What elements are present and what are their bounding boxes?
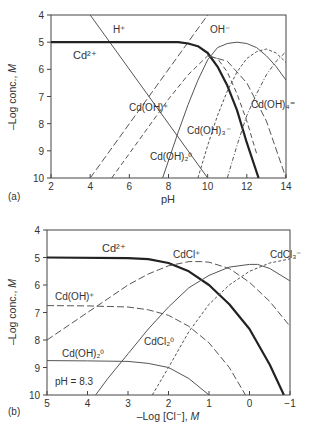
panel-b-ylabel: –Log conc., M xyxy=(6,279,18,345)
y-tick-label: 4 xyxy=(34,225,40,236)
panel-a-xlabel: pH xyxy=(161,193,175,205)
x-tick-label: 0 xyxy=(247,398,253,409)
x-tick-label: 8 xyxy=(166,181,172,192)
label-cdoh2-neutral: Cd(OH)₂⁰ xyxy=(150,151,192,162)
y-tick-label: 9 xyxy=(38,146,44,157)
y-tick-label: 10 xyxy=(33,173,45,184)
series-line xyxy=(47,258,284,396)
panel-a-chart: 246810121445678910 H⁺ OH⁻ Cd²⁺ Cd(OH)⁺ C… xyxy=(6,0,295,205)
y-tick-label: 6 xyxy=(34,280,40,291)
ylabel-text: –Log conc., xyxy=(6,73,18,130)
x-tick-label: −1 xyxy=(284,398,296,409)
label-cdcl-plus: CdCl⁺ xyxy=(173,249,200,260)
x-tick-label: 4 xyxy=(87,181,93,192)
ylabel-text-b: –Log conc., xyxy=(6,288,18,345)
label-cdcl2-neutral: CdCl₂⁰ xyxy=(144,336,174,347)
xlabel-unit: M xyxy=(191,410,200,422)
label-cdoh-plus: Cd(OH)⁺ xyxy=(129,102,168,113)
y-tick-label: 10 xyxy=(29,390,41,401)
label-cdcl3-minus: CdCl₃⁻ xyxy=(270,249,301,260)
y-tick-label: 8 xyxy=(38,119,44,130)
x-tick-label: 2 xyxy=(166,398,172,409)
y-tick-label: 7 xyxy=(38,92,44,103)
x-tick-label: 3 xyxy=(125,398,131,409)
panel-b-series xyxy=(47,258,290,396)
x-tick-label: 12 xyxy=(241,181,253,192)
x-tick-label: 2 xyxy=(48,181,54,192)
label-h-plus: H⁺ xyxy=(113,24,125,35)
x-tick-label: 4 xyxy=(85,398,91,409)
panel-a-ylabel: –Log conc., M xyxy=(6,64,18,130)
x-tick-label: 10 xyxy=(202,181,214,192)
label-cdoh4: Cd(OH)₄⁼ xyxy=(251,99,295,110)
y-tick-label: 8 xyxy=(34,335,40,346)
x-tick-label: 1 xyxy=(206,398,212,409)
y-tick-label: 5 xyxy=(34,253,40,264)
y-tick-label: 6 xyxy=(38,64,44,75)
series-line xyxy=(198,49,286,178)
label-cdoh3-minus: Cd(OH)₃⁻ xyxy=(187,125,231,136)
ph-annotation: pH = 8.3 xyxy=(55,376,94,387)
y-tick-label: 9 xyxy=(34,363,40,374)
label-cdoh2-neutral-b: Cd(OH)₂⁰ xyxy=(62,348,104,359)
y-tick-label: 7 xyxy=(34,308,40,319)
x-tick-label: 6 xyxy=(127,181,133,192)
ylabel-unit: M xyxy=(6,64,18,73)
xlabel-text: –Log [Cl⁻], xyxy=(137,410,191,422)
x-tick-label: 14 xyxy=(280,181,292,192)
panel-b-xlabel: –Log [Cl⁻], M xyxy=(137,410,200,422)
y-tick-label: 5 xyxy=(38,37,44,48)
label-cd2plus-b: Cd²⁺ xyxy=(102,242,126,254)
panel-a-tag: (a) xyxy=(8,191,20,202)
y-tick-label: 4 xyxy=(38,10,44,21)
panel-b-tag: (b) xyxy=(8,406,20,417)
ylabel-unit-b: M xyxy=(6,279,18,288)
figure: 246810121445678910 H⁺ OH⁻ Cd²⁺ Cd(OH)⁺ C… xyxy=(0,0,311,439)
label-cd2plus: Cd²⁺ xyxy=(73,49,97,61)
label-cdoh-plus-b: Cd(OH)⁺ xyxy=(55,291,94,302)
panel-b-frame xyxy=(47,230,290,395)
panel-b-chart: 543210−145678910 Cd²⁺ CdCl⁺ CdCl₃⁻ Cd(OH… xyxy=(6,225,301,422)
x-tick-label: 5 xyxy=(44,398,50,409)
series-line xyxy=(152,259,290,395)
label-oh-minus: OH⁻ xyxy=(210,24,230,35)
